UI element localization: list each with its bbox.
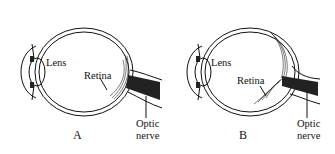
panel-b: Lens Retina Optic nerve B [187,28,321,142]
optic-label-b: Optic [297,118,321,129]
lens [29,58,45,86]
caption-b: B [239,128,247,142]
retina-pointer-b [260,86,266,96]
nerve-label-b: nerve [297,130,321,141]
retina-label-a: Retina [84,70,112,81]
eye-diagram: Lens Retina Optic nerve A Lens Retina Op… [0,0,335,154]
lens [195,58,211,86]
eyeball-outer-wall [201,28,299,116]
optic-nerve [126,75,160,100]
lens-label-b: Lens [211,57,231,68]
retina-label-b: Retina [237,75,265,86]
lens-label-a: Lens [46,57,66,68]
optic-nerve [282,76,318,96]
optic-label-a: Optic [136,118,160,129]
caption-a: A [73,128,82,142]
nerve-label-a: nerve [136,130,160,141]
panel-a: Lens Retina Optic nerve A [21,28,162,142]
eyeball-inner-wall [205,32,295,112]
